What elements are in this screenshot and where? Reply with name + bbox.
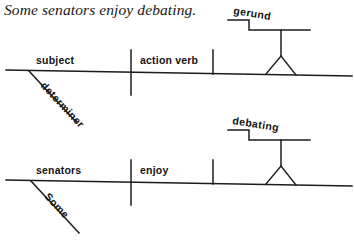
example-diagram xyxy=(6,130,352,233)
sentence-diagram-canvas: subject action verb determiner gerund se… xyxy=(0,0,354,245)
example-pedestal-right-leg xyxy=(281,166,296,185)
example-verb-label: enjoy xyxy=(140,164,168,176)
template-verb-label: action verb xyxy=(140,54,198,66)
template-gerund-label-group: gerund xyxy=(233,4,272,22)
template-baseline xyxy=(6,70,352,76)
example-baseline xyxy=(6,180,352,186)
template-subject-label: subject xyxy=(36,54,74,66)
template-gerund-label: gerund xyxy=(233,4,272,22)
example-subject-label: senators xyxy=(36,164,81,176)
example-modifier-label: Some xyxy=(43,190,72,220)
template-modifier-label: determiner xyxy=(39,79,88,130)
template-pedestal-right-leg xyxy=(281,56,296,75)
template-pedestal-left-leg xyxy=(266,56,281,74)
example-pedestal-left-leg xyxy=(266,166,281,184)
